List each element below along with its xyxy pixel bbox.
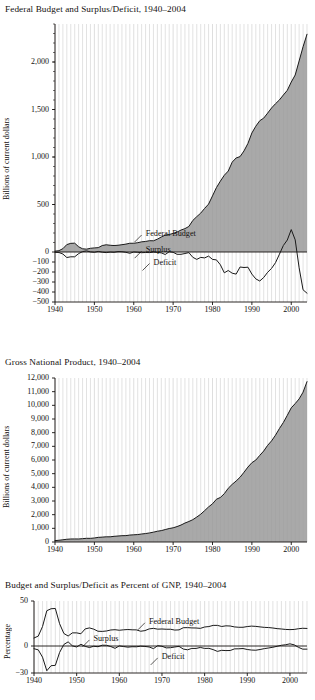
x-tick-label: 1970 — [165, 306, 181, 314]
y-tick-label: 10,000 — [0, 401, 49, 409]
x-tick-label: 1960 — [126, 306, 142, 314]
x-tick-label: 1950 — [69, 677, 85, 685]
figure-canvas: Federal Budget and Surplus/Deficit, 1940… — [0, 0, 315, 700]
annotation-leader-line — [151, 658, 158, 665]
x-tick-label: 1970 — [165, 546, 181, 554]
y-tick-label: 4,000 — [0, 483, 49, 491]
y-tick-label: 50 — [0, 597, 28, 605]
y-tick-label: 0 — [0, 248, 49, 256]
y-tick-label: 2,000 — [0, 58, 49, 66]
x-tick-label: 1970 — [154, 677, 170, 685]
x-tick-label: 1980 — [197, 677, 213, 685]
x-tick-label: 1950 — [86, 306, 102, 314]
x-tick-label: 2000 — [283, 546, 299, 554]
x-tick-label: 1950 — [86, 546, 102, 554]
y-tick-label: −400 — [0, 288, 49, 296]
chart-annotation: Surplus — [93, 633, 118, 642]
y-tick-label: 0 — [0, 538, 49, 546]
chart-title-gross-national-product: Gross National Product, 1940–2004 — [5, 357, 141, 367]
y-tick-label: 1,000 — [0, 524, 49, 532]
x-tick-label: 1960 — [111, 677, 127, 685]
chart-panel-percent-of-gnp: Budget and Surplus/Deficit as Percent of… — [0, 580, 315, 698]
annotation-leader-line — [143, 264, 150, 271]
y-tick-label: −300 — [0, 278, 49, 286]
chart-annotation: Federal Budget — [146, 229, 196, 238]
chart-title-percent-of-gnp: Budget and Surplus/Deficit as Percent of… — [5, 580, 226, 590]
x-tick-label: 1940 — [26, 677, 42, 685]
y-tick-label: 1,500 — [0, 106, 49, 114]
chart-panel-federal-budget: Federal Budget and Surplus/Deficit, 1940… — [0, 4, 315, 344]
y-tick-label: 9,000 — [0, 415, 49, 423]
y-tick-label: 12,000 — [0, 374, 49, 382]
y-tick-label: −30 — [0, 669, 28, 677]
x-tick-label: 2000 — [282, 677, 298, 685]
y-tick-label: −200 — [0, 268, 49, 276]
y-tick-label: 3,000 — [0, 497, 49, 505]
y-tick-label: 1,000 — [0, 153, 49, 161]
x-tick-label: 1990 — [244, 306, 260, 314]
x-tick-label: 1940 — [47, 306, 63, 314]
y-tick-label: 11,000 — [0, 388, 49, 396]
chart-title-federal-budget: Federal Budget and Surplus/Deficit, 1940… — [5, 4, 186, 14]
y-tick-label: 0 — [0, 642, 28, 650]
x-tick-label: 1990 — [244, 546, 260, 554]
y-tick-label: 2,000 — [0, 511, 49, 519]
y-tick-label: 5,000 — [0, 470, 49, 478]
chart-annotation: Deficit — [154, 257, 177, 266]
chart-annotation: Deficit — [162, 651, 185, 660]
annotation-leader-line — [135, 235, 142, 242]
y-tick-label: −500 — [0, 298, 49, 306]
x-tick-label: 1980 — [205, 546, 221, 554]
x-tick-label: 2000 — [283, 306, 299, 314]
y-tick-label: −100 — [0, 258, 49, 266]
annotation-leader-line — [138, 623, 145, 630]
y-tick-label: 7,000 — [0, 442, 49, 450]
y-tick-label: 8,000 — [0, 429, 49, 437]
chart-panel-gross-national-product: Gross National Product, 1940–2004 Billio… — [0, 357, 315, 572]
x-tick-label: 1940 — [47, 546, 63, 554]
gridlines — [34, 601, 307, 673]
chart-annotation: Federal Budget — [149, 616, 199, 625]
x-tick-label: 1960 — [126, 546, 142, 554]
chart-annotation: Surplus — [146, 245, 171, 254]
x-tick-label: 1980 — [205, 306, 221, 314]
x-tick-label: 1990 — [239, 677, 255, 685]
y-tick-label: 500 — [0, 201, 49, 209]
y-tick-label: 6,000 — [0, 456, 49, 464]
